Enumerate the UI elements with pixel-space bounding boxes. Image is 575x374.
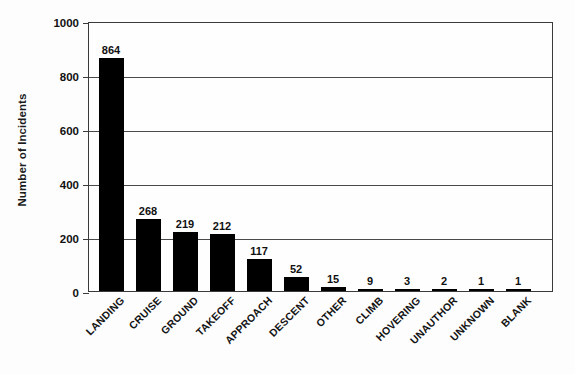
bar-value-label: 3 — [404, 275, 410, 287]
bar-value-label: 9 — [367, 275, 373, 287]
bar — [321, 287, 346, 291]
bar — [358, 289, 383, 291]
x-axis-label: CRUISE — [126, 294, 163, 331]
bar-group: 212 — [210, 21, 235, 291]
bar — [395, 289, 420, 291]
bar — [210, 234, 235, 291]
x-axis-label: CLIMB — [353, 294, 386, 327]
bar-group: 268 — [136, 21, 161, 291]
x-axis-label: BLANK — [498, 294, 533, 329]
bar-group: 1 — [469, 21, 494, 291]
bar-value-label: 1 — [515, 275, 521, 287]
bar — [432, 289, 457, 291]
y-axis-tick: 200 — [60, 233, 89, 245]
bar-value-label: 212 — [213, 220, 231, 232]
bar-value-label: 52 — [290, 263, 302, 275]
y-axis-tick: 1000 — [53, 17, 89, 29]
y-axis-tick: 800 — [60, 71, 89, 83]
y-axis-tick-label: 200 — [60, 233, 83, 245]
bar-value-label: 268 — [139, 205, 157, 217]
bar — [136, 219, 161, 291]
y-axis-tick-label: 600 — [60, 125, 83, 137]
y-axis-tick: 0 — [73, 287, 89, 299]
bar-group: 1 — [506, 21, 531, 291]
bar — [284, 277, 309, 291]
x-axis-labels: LANDINGCRUISEGROUNDTAKEOFFAPPROACHDESCEN… — [88, 294, 553, 374]
bar — [469, 289, 494, 291]
bar — [247, 259, 272, 291]
x-axis-label: LANDING — [83, 294, 126, 337]
bar-group: 117 — [247, 21, 272, 291]
bar-chart: Number of Incidents 02004006008001000 86… — [0, 0, 575, 374]
bar-group: 15 — [321, 21, 346, 291]
y-axis-title-text: Number of Incidents — [16, 93, 28, 206]
y-axis-title: Number of Incidents — [6, 0, 38, 300]
plot-area: 02004006008001000 8642682192121175215932… — [88, 22, 553, 292]
bars: 864268219212117521593211 — [89, 23, 552, 291]
bar-group: 9 — [358, 21, 383, 291]
bar-value-label: 1 — [478, 275, 484, 287]
bar-group: 864 — [99, 21, 124, 291]
bar-value-label: 117 — [250, 245, 268, 257]
bar-value-label: 219 — [176, 218, 194, 230]
bar-group: 3 — [395, 21, 420, 291]
bar-value-label: 15 — [327, 273, 339, 285]
y-axis-tick-label: 0 — [73, 287, 83, 299]
bar — [506, 289, 531, 291]
y-axis-tick-label: 400 — [60, 179, 83, 191]
bar-value-label: 2 — [441, 275, 447, 287]
bar-group: 219 — [173, 21, 198, 291]
bar — [173, 232, 198, 291]
y-axis-tick: 400 — [60, 179, 89, 191]
x-axis-label: OTHER — [313, 294, 348, 329]
bar — [99, 58, 124, 291]
bar-group: 52 — [284, 21, 309, 291]
bar-value-label: 864 — [102, 44, 120, 56]
y-axis-tick: 600 — [60, 125, 89, 137]
bar-group: 2 — [432, 21, 457, 291]
y-axis-tick-label: 1000 — [53, 17, 83, 29]
y-axis-tick-label: 800 — [60, 71, 83, 83]
